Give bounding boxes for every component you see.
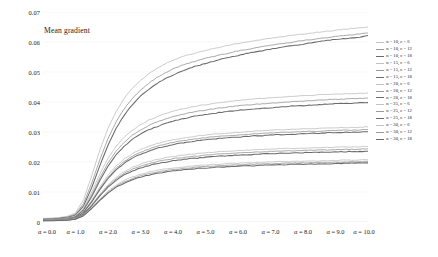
legend-line-swatch <box>376 42 384 43</box>
x-axis-tick-label: α = 10.0 <box>353 228 374 235</box>
legend-item-label: n = 15, c = 12 <box>386 67 412 74</box>
x-axis-tick-label: α = 0.0 <box>38 228 56 235</box>
legend-item-label: n = 20, c = 6 <box>386 81 409 88</box>
y-axis-tick-label: 0.06 <box>28 39 40 46</box>
legend-item[interactable]: n = 25, c = 12 <box>376 108 438 115</box>
series-line <box>43 160 368 221</box>
chart-screenshot: 00.010.020.030.040.050.060.07 Mean gradi… <box>0 0 438 257</box>
x-axis-tick-label: α = 9.0 <box>326 228 344 235</box>
legend-item[interactable]: n = 25, c = 18 <box>376 115 438 122</box>
legend-item[interactable]: n = 15, c = 18 <box>376 74 438 81</box>
y-axis: 00.010.020.030.040.050.060.07 <box>0 12 40 222</box>
legend-item-label: n = 30, c = 18 <box>386 136 412 143</box>
legend-line-swatch <box>376 111 384 112</box>
legend-item-label: n = 25, c = 18 <box>386 115 412 122</box>
legend-line-swatch <box>376 63 384 64</box>
y-axis-tick-label: 0.01 <box>28 189 40 196</box>
x-axis: α = 0.0α = 1.0α = 2.0α = 3.0α = 4.0α = 5… <box>43 228 368 242</box>
legend-line-swatch <box>376 77 384 78</box>
chart-title: Mean gradient <box>44 26 90 35</box>
x-axis-tick-label: α = 2.0 <box>99 228 117 235</box>
x-axis-tick-label: α = 7.0 <box>261 228 279 235</box>
legend-line-swatch <box>376 91 384 92</box>
legend-item-label: n = 15, c = 6 <box>386 60 409 67</box>
legend-item[interactable]: n = 20, c = 12 <box>376 88 438 95</box>
series-line <box>43 151 368 220</box>
legend-item[interactable]: n = 15, c = 12 <box>376 67 438 74</box>
legend-item[interactable]: n = 20, c = 18 <box>376 95 438 102</box>
legend-item-label: n = 10, c = 6 <box>386 39 409 46</box>
legend-item-label: n = 15, c = 18 <box>386 74 412 81</box>
legend-item[interactable]: n = 10, c = 18 <box>376 53 438 60</box>
legend-item-label: n = 20, c = 18 <box>386 95 412 102</box>
x-axis-tick-label: α = 6.0 <box>229 228 247 235</box>
series-line <box>43 27 368 218</box>
legend-item-label: n = 25, c = 12 <box>386 108 412 115</box>
legend-line-swatch <box>376 70 384 71</box>
legend-item[interactable]: n = 10, c = 12 <box>376 46 438 53</box>
y-axis-tick-label: 0.03 <box>28 129 40 136</box>
legend-item[interactable]: n = 20, c = 6 <box>376 81 438 88</box>
legend-line-swatch <box>376 139 384 140</box>
legend-item[interactable]: n = 30, c = 12 <box>376 129 438 136</box>
y-axis-tick-label: 0.07 <box>28 9 40 16</box>
legend-item[interactable]: n = 30, c = 6 <box>376 122 438 129</box>
y-axis-tick-label: 0.05 <box>28 69 40 76</box>
series-line <box>43 149 368 221</box>
legend-line-swatch <box>376 49 384 50</box>
plot-area <box>43 12 368 222</box>
y-axis-tick-label: 0.02 <box>28 159 40 166</box>
legend-line-swatch <box>376 84 384 85</box>
legend-item[interactable]: n = 25, c = 6 <box>376 101 438 108</box>
x-axis-tick-label: α = 1.0 <box>66 228 84 235</box>
legend-line-swatch <box>376 56 384 57</box>
line-chart-canvas <box>43 12 368 222</box>
y-axis-tick-label: 0.04 <box>28 99 40 106</box>
legend-item[interactable]: n = 10, c = 6 <box>376 39 438 46</box>
legend-item-label: n = 30, c = 12 <box>386 129 412 136</box>
chart-legend: n = 10, c = 6n = 10, c = 12n = 10, c = 1… <box>376 39 438 143</box>
x-axis-tick-label: α = 8.0 <box>294 228 312 235</box>
x-axis-tick-label: α = 4.0 <box>164 228 182 235</box>
legend-line-swatch <box>376 104 384 105</box>
legend-line-swatch <box>376 97 384 98</box>
legend-item-label: n = 10, c = 12 <box>386 46 412 53</box>
legend-item[interactable]: n = 30, c = 18 <box>376 136 438 143</box>
legend-line-swatch <box>376 118 384 119</box>
y-axis-tick-label: 0 <box>37 219 40 226</box>
legend-item-label: n = 25, c = 6 <box>386 101 409 108</box>
legend-item-label: n = 10, c = 18 <box>386 53 412 60</box>
legend-item-label: n = 20, c = 12 <box>386 88 412 95</box>
x-axis-tick-label: α = 5.0 <box>196 228 214 235</box>
legend-line-swatch <box>376 125 384 126</box>
legend-item[interactable]: n = 15, c = 6 <box>376 60 438 67</box>
legend-line-swatch <box>376 132 384 133</box>
legend-item-label: n = 30, c = 6 <box>386 122 409 129</box>
x-axis-tick-label: α = 3.0 <box>131 228 149 235</box>
